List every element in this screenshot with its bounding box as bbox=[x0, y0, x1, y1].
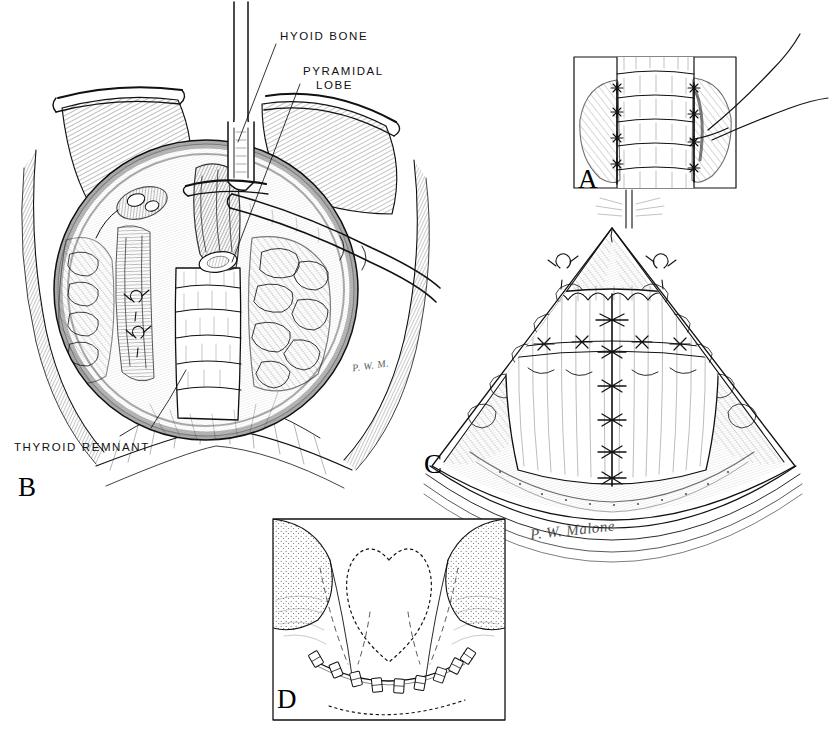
label-thyroid-remnant: THYROID REMNANT bbox=[14, 441, 150, 455]
illustration-page: HYOID BONE PYRAMIDAL LOBE THYROID REMNAN… bbox=[0, 0, 830, 733]
panel-a-drawing bbox=[574, 34, 828, 228]
panel-d-drawing bbox=[273, 519, 505, 720]
panel-letter-a: A bbox=[578, 166, 598, 193]
right-thyroid-lobe bbox=[248, 237, 330, 391]
panel-letter-b: B bbox=[18, 474, 36, 501]
panel-letter-c: C bbox=[424, 451, 442, 478]
surgical-illustration bbox=[0, 0, 830, 733]
left-lateral-tissue bbox=[59, 238, 114, 384]
panel-letter-d: D bbox=[277, 686, 297, 713]
label-pyramidal-lobe: PYRAMIDAL bbox=[303, 65, 384, 79]
label-hyoid-bone: HYOID BONE bbox=[280, 30, 368, 44]
panel-a-to-c-connector bbox=[596, 190, 664, 228]
panel-c-drawing bbox=[424, 228, 802, 562]
trachea-b bbox=[175, 268, 241, 420]
label-pyramidal-lobe-line2: LOBE bbox=[316, 79, 353, 93]
